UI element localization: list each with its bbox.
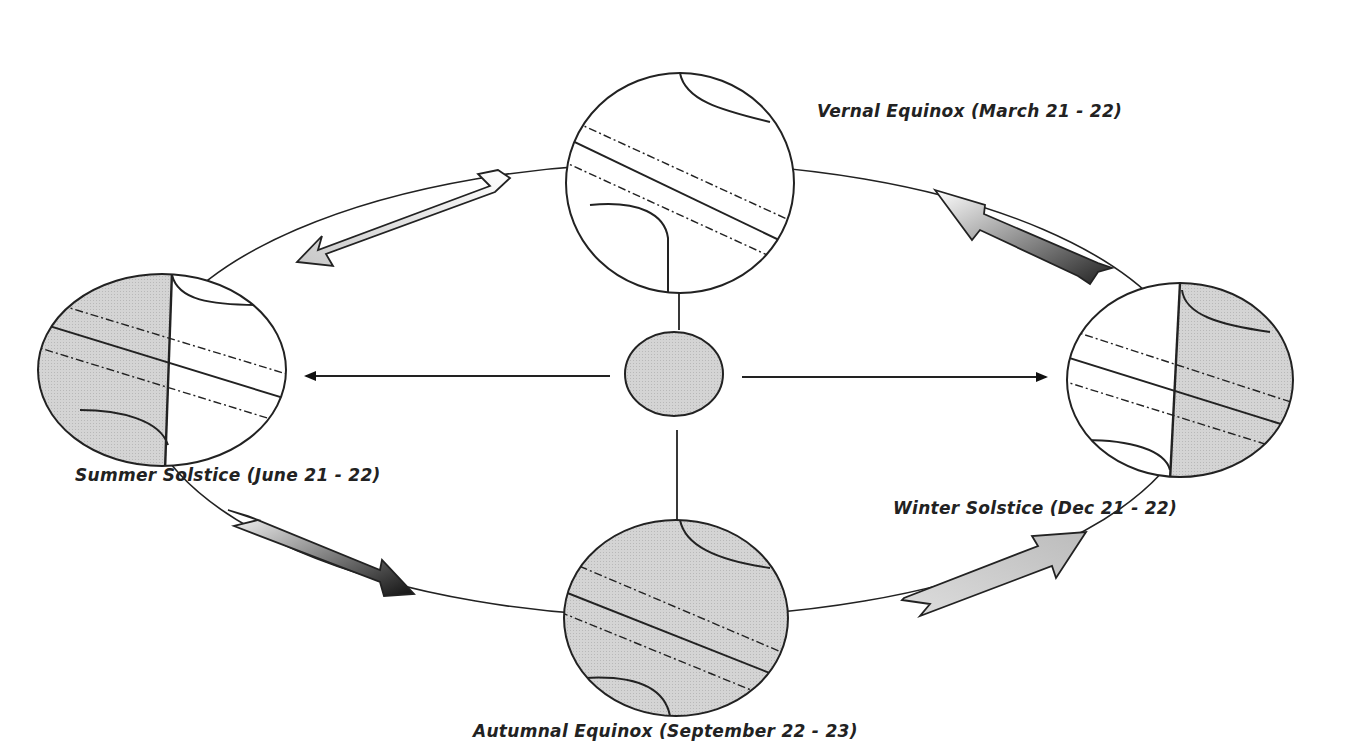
earth-vernal-equinox [560, 73, 800, 300]
orbit-arrow-top-right [935, 190, 1112, 284]
orbit-diagram [0, 0, 1347, 749]
sun [625, 332, 723, 416]
label-autumnal-equinox: Autumnal Equinox (September 22 - 23) [473, 721, 858, 741]
earth-summer-solstice [30, 260, 290, 470]
label-winter-solstice: Winter Solstice (Dec 21 - 22) [893, 498, 1177, 518]
label-summer-solstice: Summer Solstice (June 21 - 22) [75, 465, 381, 485]
earth-autumnal-equinox [560, 520, 800, 716]
orbit-arrow-bottom-right [902, 532, 1086, 616]
orbit-arrow-top-left [297, 170, 510, 266]
orbit-arrow-bottom-left [228, 510, 414, 596]
earth-winter-solstice [1060, 280, 1300, 490]
label-vernal-equinox: Vernal Equinox (March 21 - 22) [817, 101, 1122, 121]
